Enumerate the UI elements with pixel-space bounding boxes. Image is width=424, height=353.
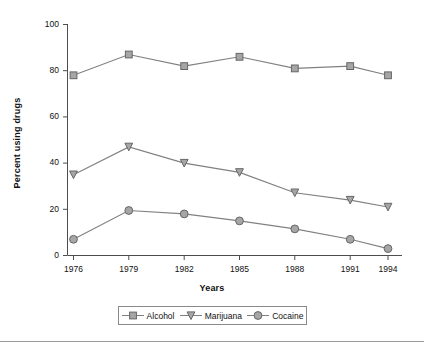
legend-label-marijuana: Marijuana <box>205 311 242 321</box>
series-cocaine <box>70 207 392 253</box>
series-marijuana <box>70 143 392 211</box>
y-tick-label-80: 80 <box>33 65 59 75</box>
series-marijuana-line <box>74 147 389 207</box>
x-tick-label-1985: 1985 <box>220 264 260 274</box>
series-alcohol <box>70 51 391 79</box>
series-alcohol-line <box>74 55 389 76</box>
chart-plot-area <box>0 0 424 353</box>
legend-item-cocaine[interactable]: Cocaine <box>247 310 303 321</box>
drug-use-line-chart: 100 80 60 40 20 0 1976 1979 1982 1985 19… <box>0 0 424 353</box>
triangle-down-marker-icon <box>180 310 202 321</box>
chart-legend: Alcohol Marijuana Cocaine <box>118 306 307 325</box>
series-cocaine-markers <box>70 207 392 253</box>
y-axis-ticks <box>63 25 68 256</box>
y-tick-label-0: 0 <box>33 250 59 260</box>
legend-item-marijuana[interactable]: Marijuana <box>180 310 242 321</box>
x-tick-label-1994: 1994 <box>368 264 408 274</box>
y-tick-label-60: 60 <box>33 111 59 121</box>
circle-marker-icon <box>247 310 269 321</box>
y-tick-label-20: 20 <box>33 204 59 214</box>
x-tick-label-1979: 1979 <box>109 264 149 274</box>
legend-label-cocaine: Cocaine <box>272 311 303 321</box>
chart-axes <box>63 24 402 260</box>
series-alcohol-markers <box>70 51 391 79</box>
y-axis-title: Percent using drugs <box>12 88 22 198</box>
y-tick-label-100: 100 <box>33 19 59 29</box>
x-axis-title: Years <box>0 283 424 293</box>
x-tick-label-1976: 1976 <box>54 264 94 274</box>
bottom-divider <box>0 341 424 342</box>
legend-item-alcohol[interactable]: Alcohol <box>122 310 175 321</box>
series-marijuana-markers <box>70 143 392 211</box>
x-tick-label-1982: 1982 <box>164 264 204 274</box>
square-marker-icon <box>122 310 144 321</box>
x-axis-ticks <box>74 256 389 261</box>
y-tick-label-40: 40 <box>33 157 59 167</box>
legend-label-alcohol: Alcohol <box>147 311 175 321</box>
x-tick-label-1991: 1991 <box>330 264 370 274</box>
x-tick-label-1988: 1988 <box>275 264 315 274</box>
series-cocaine-line <box>74 211 389 249</box>
